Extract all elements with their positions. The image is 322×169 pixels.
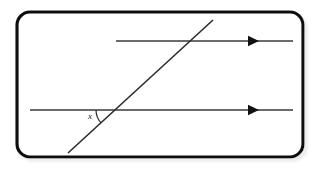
figure-canvas [0, 0, 322, 169]
rounded-rectangle-border [17, 12, 303, 157]
geometry-figure: x [0, 0, 322, 169]
angle-label-x: x [88, 112, 92, 121]
